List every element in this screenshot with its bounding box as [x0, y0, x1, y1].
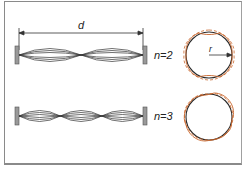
mode-label-n2: n=2 [154, 49, 173, 61]
radius-label: r [209, 44, 212, 54]
standing-wave-diagram [0, 0, 251, 173]
string-mode-n2 [15, 46, 147, 64]
orbit-mode-n3 [184, 93, 233, 141]
string-mode-n3 [15, 107, 147, 125]
distance-dimension [19, 28, 143, 50]
orbit-mode-n2 [184, 30, 234, 80]
mode-label-n3: n=3 [154, 110, 173, 122]
right-support-n2 [143, 46, 147, 64]
left-support-n2 [15, 46, 19, 64]
distance-label: d [78, 19, 84, 31]
right-support-n3 [143, 107, 147, 125]
left-support-n3 [15, 107, 19, 125]
